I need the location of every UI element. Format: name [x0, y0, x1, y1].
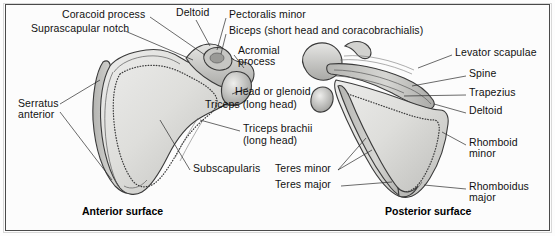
coracoid-tip: [210, 53, 224, 63]
label-serratus-anterior-line2: anterior: [18, 109, 54, 121]
posterior-glenoid: [311, 87, 333, 112]
label-deltoid-posterior: Deltoid: [469, 105, 502, 117]
anatomy-figure: Coracoid process Suprascapular notch Del…: [0, 0, 555, 236]
label-rhomboidus-major-line2: major: [469, 192, 496, 204]
label-teres-major: Teres major: [275, 179, 331, 191]
label-suprascapular-notch: Suprascapular notch: [31, 23, 129, 35]
label-coracoid-process: Coracoid process: [62, 9, 145, 21]
label-teres-minor: Teres minor: [275, 163, 331, 175]
label-triceps-long-head: Triceps (long head): [205, 99, 297, 111]
caption-anterior-surface: Anterior surface: [82, 205, 163, 217]
label-head-or-glenoid: Head or glenoid: [235, 86, 311, 98]
label-deltoid-anterior: Deltoid: [176, 7, 209, 19]
label-trapezius: Trapezius: [469, 87, 516, 99]
label-biceps: Biceps (short head and coracobrachialis): [229, 25, 423, 37]
label-acromial-process-line2: process: [238, 56, 275, 68]
posterior-coracoid-hook: [345, 42, 371, 59]
label-triceps-brachii-line2: (long head): [243, 135, 297, 147]
caption-posterior-surface: Posterior surface: [385, 205, 471, 217]
label-rhomboid-minor-line2: minor: [469, 148, 496, 160]
label-spine: Spine: [469, 68, 496, 80]
label-triceps-brachii: Triceps brachii: [243, 123, 312, 135]
label-pectoralis-minor: Pectoralis minor: [229, 9, 306, 21]
label-subscapularis: Subscapularis: [193, 163, 260, 175]
label-levator-scapulae: Levator scapulae: [455, 47, 537, 59]
